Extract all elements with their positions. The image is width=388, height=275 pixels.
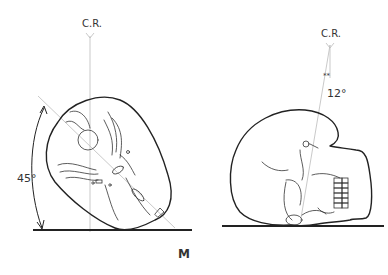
angle-arc: [32, 108, 44, 228]
teeth: [334, 178, 348, 208]
right-orbit-detail: [303, 141, 309, 147]
right-skull-details: [262, 141, 348, 225]
right-marker: **: [323, 72, 331, 80]
right-cr-label: C.R.: [321, 28, 341, 39]
left-cr-label: C.R.: [82, 18, 102, 29]
left-angle-label: 45°: [17, 172, 37, 185]
left-view: C.R.: [17, 18, 192, 232]
left-skull-axis-line: [38, 96, 175, 228]
figure-caption: M: [178, 247, 190, 261]
right-view: C.R. ** 12°: [222, 28, 384, 226]
diagram: C.R.: [0, 0, 388, 275]
left-skull-details: [58, 111, 150, 220]
right-skull-outline: [230, 110, 371, 226]
right-condyle: [286, 215, 302, 225]
right-angle-label: 12°: [327, 87, 347, 100]
foramen-circle: [78, 130, 98, 150]
